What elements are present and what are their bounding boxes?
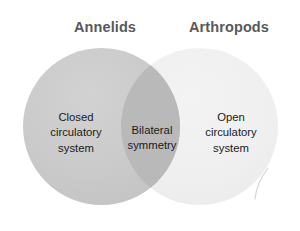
label-line: circulatory <box>181 125 281 140</box>
label-line: Bilateral <box>112 123 192 138</box>
label-line: Open <box>181 110 281 125</box>
label-line: Closed <box>26 110 126 125</box>
label-line: symmetry <box>112 138 192 153</box>
venn-diagram-figure: Annelids Arthropods <box>0 0 300 231</box>
label-line: circulatory <box>26 125 126 140</box>
label-arthropods-only: Open circulatory system <box>181 110 281 156</box>
label-intersection: Bilateral symmetry <box>112 123 192 154</box>
label-line: system <box>181 141 281 156</box>
label-line: system <box>26 141 126 156</box>
label-annelids-only: Closed circulatory system <box>26 110 126 156</box>
